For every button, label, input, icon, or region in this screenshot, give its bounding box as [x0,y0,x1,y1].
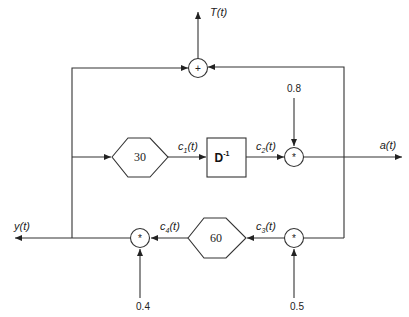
output-t-label: T(t) [210,6,227,18]
mult-node-mid: * [285,148,304,167]
svg-text:*: * [138,233,142,244]
hexagon-30: 30 [112,138,168,177]
block-diagram: T(t) + 30 c1(t) D-1 c2(t) 0.8 * a(t) * 0… [0,0,409,317]
c4-label: c4(t) [160,220,180,234]
hexagon-60: 60 [188,218,246,258]
output-a-label: a(t) [380,139,397,151]
c1-label: c1(t) [178,140,198,154]
output-y-label: y(t) [13,220,30,232]
constant-0-5: 0.5 [290,301,304,312]
mult-node-bottom-right: * [285,229,304,248]
constant-0-8: 0.8 [287,83,301,94]
c2-label: c2(t) [256,140,276,154]
constant-0-4: 0.4 [136,301,150,312]
svg-text:*: * [292,233,296,244]
svg-text:*: * [292,152,296,163]
svg-text:30: 30 [134,150,146,164]
mult-node-bottom-left: * [131,229,150,248]
c3-label: c3(t) [256,220,276,234]
sum-node: + [189,59,208,78]
delay-block: D-1 [207,138,246,177]
svg-text:60: 60 [210,231,222,245]
svg-text:+: + [195,63,201,74]
